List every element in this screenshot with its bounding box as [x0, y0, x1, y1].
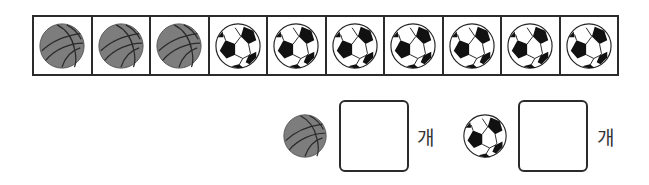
soccer-ball-icon: [565, 22, 613, 70]
soccer-ball-icon: [272, 22, 320, 70]
grid-cell-soccer: [444, 17, 503, 74]
soccer-ball-icon: [389, 22, 437, 70]
basketball-icon: [155, 22, 203, 70]
soccer-ball-icon: [448, 22, 496, 70]
grid-cell-basketball: [93, 17, 152, 74]
grid-cell-basketball: [151, 17, 210, 74]
basketball-icon: [38, 22, 86, 70]
basketball-unit-label: 개: [417, 123, 434, 150]
grid-cell-soccer: [210, 17, 269, 74]
soccer-ball-icon: [506, 22, 554, 70]
grid-cell-soccer: [385, 17, 444, 74]
soccer-ball-icon: [214, 22, 262, 70]
grid-cell-soccer: [327, 17, 386, 74]
basketball-icon: [282, 113, 328, 159]
soccer-ball-icon: [331, 22, 379, 70]
soccer-unit-label: 개: [597, 123, 614, 150]
basketball-icon: [97, 22, 145, 70]
soccer-ball-icon: [462, 113, 508, 159]
basketball-count-box[interactable]: [339, 100, 409, 172]
grid-cell-soccer: [561, 17, 618, 74]
grid-cell-basketball: [34, 17, 93, 74]
ball-grid: [32, 15, 619, 76]
grid-cell-soccer: [268, 17, 327, 74]
grid-cell-soccer: [502, 17, 561, 74]
soccer-count-box[interactable]: [518, 100, 588, 172]
